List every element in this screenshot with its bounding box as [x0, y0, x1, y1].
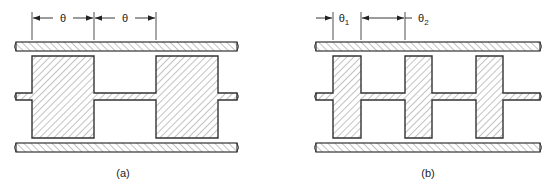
- top-ground-strip: [315, 42, 542, 51]
- dimension-lines-a: θ θ: [32, 12, 156, 40]
- theta-label: θ: [122, 12, 128, 24]
- theta-label: θ: [60, 12, 66, 24]
- panel-a: θ θ (a): [15, 12, 239, 179]
- bottom-ground-strip: [315, 143, 542, 152]
- center-conductor: [315, 56, 542, 138]
- theta1-label: θ1: [339, 12, 350, 27]
- stepped-impedance-diagram: θ θ (a): [0, 0, 550, 184]
- panel-caption-b: (b): [421, 167, 434, 179]
- bottom-ground-strip: [15, 143, 239, 152]
- panel-caption-a: (a): [116, 167, 129, 179]
- dimension-lines-b: θ1 θ2: [316, 12, 429, 40]
- panel-b: θ1 θ2 (b): [315, 12, 542, 179]
- theta2-label: θ2: [418, 12, 429, 27]
- top-ground-strip: [15, 42, 239, 51]
- center-conductor: [15, 56, 239, 138]
